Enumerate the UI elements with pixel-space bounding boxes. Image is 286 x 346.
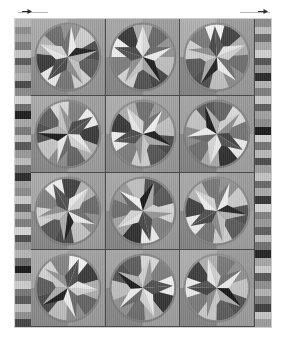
border-segment	[15, 135, 31, 143]
border-segment	[15, 304, 31, 312]
border-segment	[255, 34, 271, 42]
border-segment	[15, 27, 31, 35]
border-segment	[15, 142, 31, 150]
border-segment	[15, 119, 31, 127]
block-grid	[31, 19, 255, 327]
border-segment	[15, 65, 31, 73]
border-segment	[15, 289, 31, 297]
border-segment	[15, 296, 31, 304]
border-segment	[15, 273, 31, 281]
star-block-r3c3	[180, 173, 255, 250]
border-segment	[255, 196, 271, 204]
border-segment	[15, 50, 31, 58]
pieced-border-left	[15, 19, 31, 327]
border-segment	[15, 227, 31, 235]
border-segment	[255, 158, 271, 166]
border-segment	[15, 88, 31, 96]
border-segment	[15, 111, 31, 119]
border-segment	[255, 273, 271, 281]
border-segment	[255, 119, 271, 127]
border-segment	[255, 150, 271, 158]
scale-arrow-left-marker	[18, 9, 48, 15]
border-segment	[15, 196, 31, 204]
border-segment	[255, 27, 271, 35]
border-segment	[255, 242, 271, 250]
quilt-panel	[14, 18, 272, 328]
border-segment	[255, 73, 271, 81]
border-segment	[255, 173, 271, 181]
border-segment	[15, 219, 31, 227]
border-segment	[255, 250, 271, 258]
border-segment	[255, 258, 271, 266]
star-block-r3c2	[106, 173, 181, 250]
border-segment	[15, 73, 31, 81]
border-segment	[255, 181, 271, 189]
border-segment	[15, 19, 31, 27]
quilt-photo-canvas	[0, 0, 286, 346]
border-segment	[15, 266, 31, 274]
border-segment	[255, 88, 271, 96]
border-segment	[255, 19, 271, 27]
border-segment	[15, 319, 31, 327]
border-segment	[255, 289, 271, 297]
star-block-r1c3	[180, 19, 255, 96]
border-segment	[15, 96, 31, 104]
star-block-r4c1	[31, 250, 106, 327]
border-segment	[255, 165, 271, 173]
border-segment	[255, 111, 271, 119]
border-segment	[255, 104, 271, 112]
border-segment	[15, 212, 31, 220]
border-segment	[15, 281, 31, 289]
pieced-border-right	[255, 19, 271, 327]
border-segment	[255, 281, 271, 289]
border-segment	[255, 212, 271, 220]
border-segment	[15, 150, 31, 158]
border-segment	[15, 58, 31, 66]
border-segment	[15, 181, 31, 189]
border-segment	[15, 158, 31, 166]
border-segment	[255, 266, 271, 274]
border-segment	[255, 50, 271, 58]
star-block-r2c1	[31, 96, 106, 173]
border-segment	[255, 142, 271, 150]
star-block-r1c2	[106, 19, 181, 96]
border-segment	[255, 42, 271, 50]
border-segment	[255, 219, 271, 227]
border-segment	[15, 312, 31, 320]
border-segment	[15, 34, 31, 42]
border-segment	[15, 188, 31, 196]
border-segment	[15, 81, 31, 89]
star-block-r2c2	[106, 96, 181, 173]
border-segment	[15, 250, 31, 258]
border-segment	[15, 104, 31, 112]
border-segment	[255, 227, 271, 235]
scale-arrow-right-marker	[240, 9, 270, 15]
border-segment	[255, 127, 271, 135]
border-segment	[255, 204, 271, 212]
border-segment	[15, 165, 31, 173]
border-segment	[255, 296, 271, 304]
star-block-r4c2	[106, 250, 181, 327]
border-segment	[255, 135, 271, 143]
border-segment	[255, 96, 271, 104]
border-segment	[15, 235, 31, 243]
star-block-r4c3	[180, 250, 255, 327]
star-block-r2c3	[180, 96, 255, 173]
border-segment	[255, 304, 271, 312]
arrow-left-icon	[22, 9, 32, 14]
border-segment	[255, 58, 271, 66]
star-block-r3c1	[31, 173, 106, 250]
border-segment	[255, 235, 271, 243]
border-segment	[15, 258, 31, 266]
border-segment	[15, 173, 31, 181]
border-segment	[255, 65, 271, 73]
border-segment	[15, 42, 31, 50]
border-segment	[255, 312, 271, 320]
border-segment	[255, 188, 271, 196]
border-segment	[255, 81, 271, 89]
arrow-right-icon	[258, 9, 268, 14]
border-segment	[15, 204, 31, 212]
scale-rule-left	[18, 12, 48, 13]
border-segment	[255, 319, 271, 327]
border-segment	[15, 127, 31, 135]
